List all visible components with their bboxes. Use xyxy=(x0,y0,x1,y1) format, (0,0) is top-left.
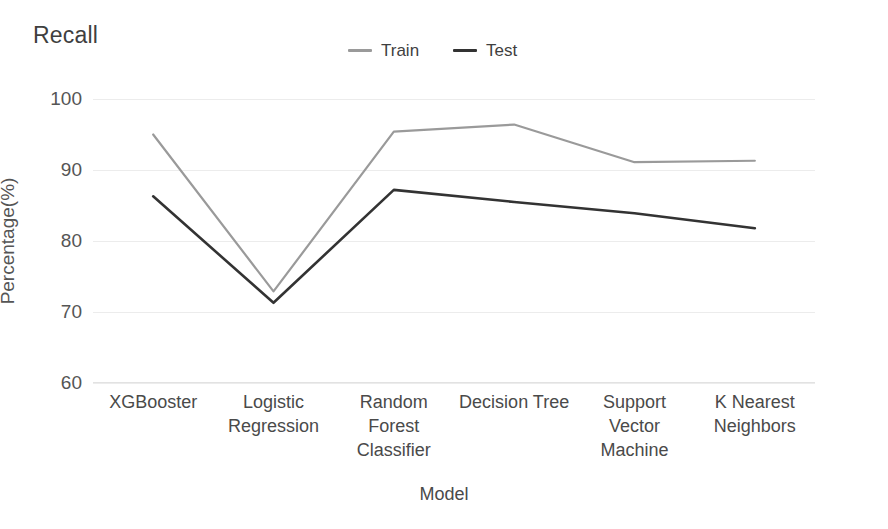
recall-line-chart: Recall Train Test Percentage(%) 10090807… xyxy=(0,0,888,529)
legend-swatch-train xyxy=(348,49,372,52)
x-axis-title: Model xyxy=(0,484,888,505)
gridline xyxy=(93,383,815,384)
y-axis-tick-label: 60 xyxy=(61,372,82,394)
y-axis-tick-label: 100 xyxy=(50,88,82,110)
x-axis-tick-labels: XGBoosterLogistic RegressionRandom Fores… xyxy=(93,390,815,470)
x-axis-tick-label: K Nearest Neighbors xyxy=(695,390,815,470)
series-line-test xyxy=(153,190,755,303)
series-line-train xyxy=(153,125,755,292)
y-axis-tick-label: 90 xyxy=(61,159,82,181)
legend-label-train: Train xyxy=(381,42,419,59)
page-title: Recall xyxy=(33,22,98,49)
x-axis-tick-label: Logistic Regression xyxy=(213,390,333,470)
x-axis-tick-label: Random Forest Classifier xyxy=(334,390,454,470)
y-axis-title: Percentage(%) xyxy=(0,178,19,305)
x-axis-tick-label: Support Vector Machine xyxy=(574,390,694,470)
x-axis-tick-label: XGBooster xyxy=(93,390,213,470)
x-axis-tick-label: Decision Tree xyxy=(454,390,574,470)
y-axis-tick-label: 80 xyxy=(61,230,82,252)
legend-item-train[interactable]: Train xyxy=(348,42,419,59)
legend-swatch-test xyxy=(453,49,477,52)
plot-area: 10090807060 xyxy=(93,99,815,383)
series-layer xyxy=(93,99,815,383)
chart-legend: Train Test xyxy=(348,42,517,59)
y-axis-tick-label: 70 xyxy=(61,301,82,323)
legend-item-test[interactable]: Test xyxy=(453,42,517,59)
legend-label-test: Test xyxy=(486,42,517,59)
